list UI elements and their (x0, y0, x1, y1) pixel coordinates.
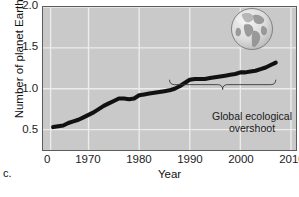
x-tick-label: 1990 (177, 153, 202, 165)
y-axis-ticks: 2.01.51.00.5 (0, 6, 299, 151)
x-tick-label: 1980 (126, 153, 151, 165)
y-axis-label: Number of planet Earths (13, 0, 25, 131)
panel-letter: c. (3, 167, 12, 179)
x-tick-label: 1970 (75, 153, 100, 165)
x-tick-label: 2010 (279, 153, 299, 165)
figure-panel-c: Global ecological overshoot 2.01.51.00.5… (0, 0, 299, 197)
x-tick-label: 0 (44, 153, 50, 165)
x-axis-label: Year (42, 168, 297, 180)
x-tick-label: 2000 (228, 153, 253, 165)
x-axis-ticks: 019701980199020002010 (0, 153, 299, 167)
